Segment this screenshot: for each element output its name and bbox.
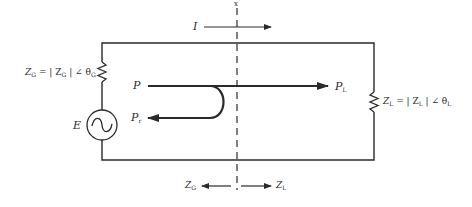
reference-plane-label: x <box>234 1 238 8</box>
bottom-zl-subscript: L <box>282 184 286 191</box>
reflected-power-arrow <box>148 86 224 118</box>
zg-angle-subscript: G <box>91 71 96 78</box>
reflected-power-label: Pr <box>131 112 141 124</box>
pr-subscript: r <box>138 117 141 124</box>
load-impedance-label: ZL = | ZL | ∠ θL <box>383 97 451 107</box>
zl-angle: | ∠ θ <box>426 96 448 106</box>
zg-angle: | ∠ θ <box>69 67 91 77</box>
zl-equation: = | Z <box>396 96 419 106</box>
zg-subscript: G <box>31 71 36 78</box>
circuit-diagram: x I ZG = | ZG | ∠ θG E P Pr PL ZL = | ZL… <box>0 0 472 207</box>
source-resistor-icon <box>98 62 106 82</box>
current-label: I <box>193 21 197 32</box>
bottom-zg-label: ZG <box>185 181 196 191</box>
ac-source-icon <box>87 110 117 140</box>
source-impedance-label: ZG = | ZG | ∠ θG <box>25 68 96 78</box>
zl-equation-subscript: L <box>419 100 423 107</box>
zg-equation: = | Z <box>39 67 62 77</box>
zg-equation-subscript: G <box>62 71 67 78</box>
bottom-zl-label: ZL <box>276 181 286 191</box>
incident-power-label: P <box>133 80 140 91</box>
source-label: E <box>73 120 81 131</box>
bottom-zg-subscript: G <box>191 184 196 191</box>
zl-subscript: L <box>389 100 393 107</box>
load-resistor-icon <box>370 92 378 112</box>
zl-angle-subscript: L <box>447 100 451 107</box>
pl-subscript: L <box>342 86 346 93</box>
delivered-power-label: PL <box>335 81 346 93</box>
circuit-wires <box>102 43 374 160</box>
